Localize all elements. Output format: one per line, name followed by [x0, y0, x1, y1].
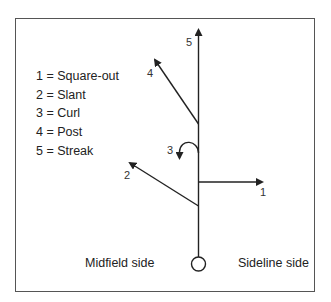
route-label-4: 4: [147, 67, 153, 79]
route-4-post: [155, 60, 199, 124]
route-3-curl: [180, 142, 199, 158]
sideline-side-label: Sideline side: [238, 256, 309, 270]
route-legend: 1 = Square-out 2 = Slant 3 = Curl 4 = Po…: [36, 67, 119, 161]
legend-item-slant: 2 = Slant: [36, 86, 119, 105]
legend-item-streak: 5 = Streak: [36, 142, 119, 161]
receiver-circle: [192, 257, 206, 271]
route-label-5: 5: [186, 36, 192, 48]
legend-item-post: 4 = Post: [36, 123, 119, 142]
legend-item-square-out: 1 = Square-out: [36, 67, 119, 86]
route-label-3: 3: [167, 144, 173, 156]
legend-item-curl: 3 = Curl: [36, 104, 119, 123]
route-label-1: 1: [260, 186, 266, 198]
route-label-2: 2: [124, 169, 130, 181]
route-2-slant: [130, 163, 199, 206]
midfield-side-label: Midfield side: [85, 256, 154, 270]
